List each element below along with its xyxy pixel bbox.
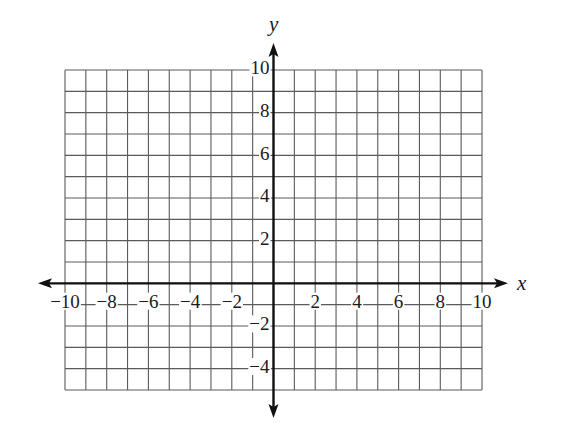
x-axis-label: x bbox=[516, 271, 527, 295]
x-tick-label: −6 bbox=[138, 291, 158, 312]
x-tick-label: 10 bbox=[473, 291, 492, 312]
x-tick-label: 4 bbox=[352, 291, 362, 312]
y-tick-label: 2 bbox=[260, 228, 270, 249]
y-tick-label: 4 bbox=[260, 185, 270, 206]
axes bbox=[38, 43, 508, 418]
x-tick-label: −2 bbox=[222, 291, 242, 312]
x-tick-label: −8 bbox=[97, 291, 117, 312]
y-tick-label: −4 bbox=[249, 356, 270, 377]
tick-labels: −10−8−6−4−2246810108642−2−4 bbox=[49, 57, 492, 377]
y-tick-label: −2 bbox=[249, 313, 269, 334]
x-tick-label: 6 bbox=[394, 291, 404, 312]
coordinate-plane: −10−8−6−4−2246810108642−2−4 x y bbox=[0, 0, 563, 428]
x-tick-label: 2 bbox=[310, 291, 320, 312]
y-axis-label: y bbox=[267, 12, 279, 36]
x-tick-label: −10 bbox=[50, 291, 80, 312]
x-tick-label: −4 bbox=[180, 291, 201, 312]
y-tick-label: 10 bbox=[251, 57, 270, 78]
y-tick-label: 8 bbox=[260, 100, 270, 121]
y-tick-label: 6 bbox=[260, 143, 270, 164]
x-tick-label: 8 bbox=[436, 291, 446, 312]
